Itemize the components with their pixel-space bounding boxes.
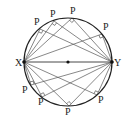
chord-line bbox=[42, 62, 112, 97]
chord-line bbox=[31, 62, 112, 85]
point-labels: PPPPPPPP bbox=[22, 5, 109, 117]
point-label-p: P bbox=[50, 8, 56, 19]
point-label-p: P bbox=[38, 96, 44, 107]
point-label-p: P bbox=[65, 106, 71, 117]
endpoint-label-x: X bbox=[15, 57, 23, 68]
point-label-p: P bbox=[103, 21, 109, 32]
endpoint-label-y: Y bbox=[114, 57, 121, 68]
point-label-p: P bbox=[70, 5, 76, 16]
chord-line bbox=[97, 62, 112, 95]
right-angle-marker bbox=[70, 20, 75, 22]
thales-diagram: XY PPPPPPPP bbox=[0, 0, 128, 118]
chord-line bbox=[24, 62, 97, 95]
point-label-p: P bbox=[98, 94, 104, 105]
point-label-p: P bbox=[22, 84, 28, 95]
point-label-p: P bbox=[34, 16, 40, 27]
endpoint-dot-x bbox=[22, 60, 26, 64]
right-angle-marker bbox=[67, 101, 72, 103]
center-dot bbox=[66, 60, 69, 63]
